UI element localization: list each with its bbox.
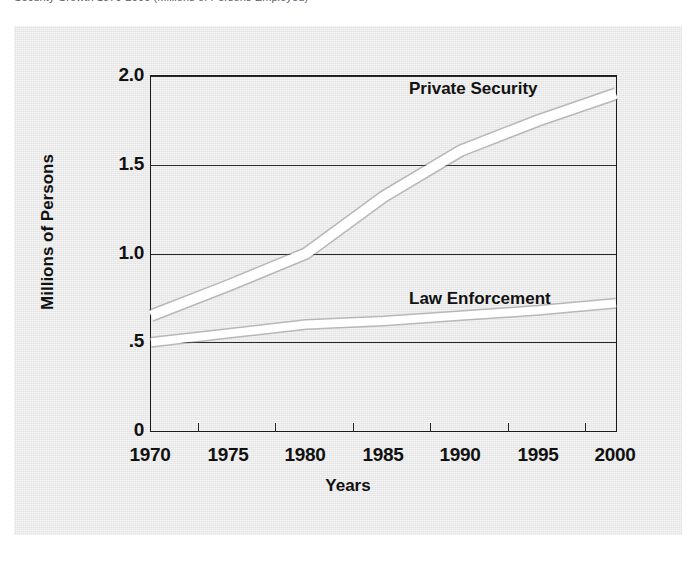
series-private-security: [151, 94, 616, 316]
x-tick-label-1980: 1980: [269, 444, 341, 466]
y-tick-label-0-5: .5: [129, 330, 144, 352]
series-label-law-enforcement: Law Enforcement: [409, 289, 551, 309]
series-plot: [151, 76, 616, 431]
private-security-line-shadow: [151, 94, 616, 316]
y-tick-label-1-5: 1.5: [118, 153, 144, 175]
chart-figure-panel: 2.0 1.5 1.0 .5 0 Millions of Persons: [14, 26, 682, 535]
x-tick-label-1985: 1985: [347, 444, 419, 466]
x-tick-label-1990: 1990: [424, 444, 496, 466]
y-tick-label-0: 0: [134, 419, 144, 441]
figure-caption-strip: Security Growth 1970-2000 (Millions of P…: [0, 0, 697, 9]
law-enforcement-line: [151, 303, 616, 342]
series-label-private-security: Private Security: [409, 79, 538, 99]
series-law-enforcement: [151, 303, 616, 342]
y-tick-label-1-0: 1.0: [118, 242, 144, 264]
x-tick-label-1975: 1975: [192, 444, 264, 466]
x-tick-label-1995: 1995: [502, 444, 574, 466]
figure-caption: Security Growth 1970-2000 (Millions of P…: [14, 0, 308, 3]
plot-inner: [151, 76, 616, 431]
x-tick-label-2000: 2000: [579, 444, 651, 466]
plot-area: [150, 75, 617, 432]
y-axis-title: Millions of Persons: [38, 142, 58, 322]
y-tick-label-2-0: 2.0: [118, 64, 144, 86]
x-axis-tick-labels: 1970 1975 1980 1985 1990 1995 2000: [14, 444, 682, 470]
x-axis-title: Years: [14, 476, 682, 496]
x-tick-label-1970: 1970: [114, 444, 186, 466]
